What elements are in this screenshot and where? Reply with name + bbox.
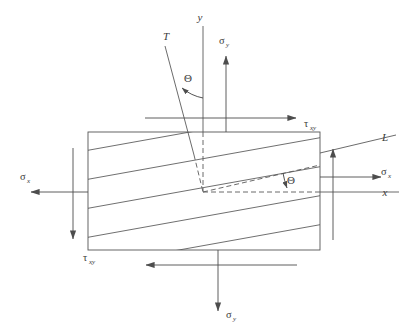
T-axis-dashed-extension xyxy=(194,155,203,192)
T-axis-line xyxy=(165,46,194,155)
tau-xy-bottom-label: τ xy xyxy=(83,252,96,266)
sigma-y-top-subscript: y xyxy=(225,41,230,49)
tau-xy-top-label: τ xy xyxy=(304,118,317,132)
stress-element-figure: y x T L Θ Θ σ y σ y σ x σ x xyxy=(0,0,408,331)
L-axis-label: L xyxy=(381,131,388,143)
T-axis-label: T xyxy=(163,30,170,42)
sigma-y-top-label: σ y xyxy=(219,35,230,49)
sigma-x-right-label: σ x xyxy=(381,166,392,180)
fiber-hatch-line xyxy=(84,253,324,296)
sigma-y-bottom-label: σ y xyxy=(226,309,237,323)
sigma-y-top-symbol: σ xyxy=(219,35,225,46)
fiber-hatch-line xyxy=(84,166,324,209)
theta-inner-label: Θ xyxy=(287,174,295,186)
sigma-x-left-subscript: x xyxy=(26,177,31,185)
sigma-x-right-subscript: x xyxy=(387,172,392,180)
theta-upper-label: Θ xyxy=(184,72,192,84)
tau-xy-bottom-symbol: τ xyxy=(83,252,87,263)
stress-element-rectangle xyxy=(88,132,320,250)
tau-xy-top-subscript: xy xyxy=(309,124,317,132)
fiber-hatch-line xyxy=(84,195,324,238)
theta-upper-arc xyxy=(182,88,203,98)
fiber-hatch-line xyxy=(84,108,324,151)
sigma-x-right-symbol: σ xyxy=(381,166,387,177)
L-axis-dashed-extension xyxy=(203,165,320,192)
sigma-y-bottom-symbol: σ xyxy=(226,309,232,320)
y-axis-label: y xyxy=(197,11,203,23)
sigma-x-left-symbol: σ xyxy=(20,171,26,182)
tau-xy-bottom-subscript: xy xyxy=(88,258,96,266)
fiber-hatch-line xyxy=(84,224,324,267)
sigma-y-bottom-subscript: y xyxy=(232,315,237,323)
stress-diagram-canvas: y x T L Θ Θ σ y σ y σ x σ x xyxy=(0,0,408,331)
tau-xy-top-symbol: τ xyxy=(304,118,308,129)
fiber-hatch-group xyxy=(84,108,324,296)
x-axis-label: x xyxy=(382,186,388,198)
sigma-x-left-label: σ x xyxy=(20,171,31,185)
